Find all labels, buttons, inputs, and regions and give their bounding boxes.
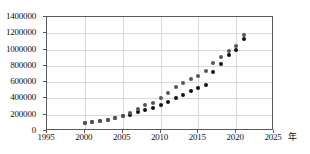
data-point (189, 89, 193, 93)
data-point (166, 100, 170, 104)
data-point (136, 110, 140, 114)
x-tick-label: 2010 (140, 133, 180, 142)
gridline-vertical (236, 17, 237, 129)
y-tick-mark (43, 65, 46, 66)
data-point (234, 44, 238, 48)
data-point (98, 119, 102, 123)
data-point (204, 83, 208, 87)
data-point (106, 118, 110, 122)
y-tick-mark (43, 32, 46, 33)
x-axis-unit-label: 年 (288, 132, 297, 142)
x-tick-mark (46, 130, 47, 133)
data-point (242, 37, 246, 41)
data-point (219, 55, 223, 59)
gridline-vertical (85, 17, 86, 129)
data-point (90, 120, 94, 124)
data-point (159, 96, 163, 100)
data-point (174, 96, 178, 100)
data-point (143, 108, 147, 112)
gridline-horizontal (47, 33, 272, 34)
x-tick-mark (197, 130, 198, 133)
data-point (151, 106, 155, 110)
y-tick-mark (43, 81, 46, 82)
data-point (166, 91, 170, 95)
y-tick-label: 1400000 (6, 12, 36, 21)
data-point (159, 103, 163, 107)
data-point (196, 86, 200, 90)
x-tick-label: 2000 (64, 133, 104, 142)
data-point (128, 111, 132, 115)
plot-area (46, 16, 273, 130)
data-point (143, 103, 147, 107)
data-point (196, 74, 200, 78)
gridline-horizontal (47, 66, 272, 67)
data-point (181, 93, 185, 97)
y-tick-mark (43, 114, 46, 115)
scatter-chart: 0200000400000600000800000100000012000001… (0, 0, 310, 154)
data-point (204, 69, 208, 73)
y-tick-label: 800000 (10, 61, 36, 70)
data-point (121, 114, 125, 118)
x-tick-label: 1995 (26, 133, 66, 142)
data-point (189, 77, 193, 81)
x-tick-mark (84, 130, 85, 133)
gridline-vertical (123, 17, 124, 129)
gridline-horizontal (47, 82, 272, 83)
y-tick-label: 600000 (10, 77, 36, 86)
x-tick-mark (160, 130, 161, 133)
y-tick-label: 200000 (10, 110, 36, 119)
data-point (151, 101, 155, 105)
y-tick-mark (43, 97, 46, 98)
data-point (227, 53, 231, 57)
y-tick-mark (43, 49, 46, 50)
x-tick-label: 2015 (177, 133, 217, 142)
data-point (181, 81, 185, 85)
data-point (83, 121, 87, 125)
data-point (174, 85, 178, 89)
y-tick-label: 1200000 (6, 28, 36, 37)
gridline-vertical (161, 17, 162, 129)
x-tick-mark (235, 130, 236, 133)
x-tick-label: 2020 (215, 133, 255, 142)
data-point (113, 116, 117, 120)
data-point (211, 70, 215, 74)
y-tick-label: 400000 (10, 93, 36, 102)
y-tick-mark (43, 16, 46, 17)
x-tick-mark (122, 130, 123, 133)
data-point (227, 49, 231, 53)
gridline-horizontal (47, 50, 272, 51)
y-tick-label: 1000000 (6, 45, 36, 54)
data-point (242, 33, 246, 37)
gridline-horizontal (47, 115, 272, 116)
data-point (211, 61, 215, 65)
x-tick-mark (273, 130, 274, 133)
data-point (219, 62, 223, 66)
x-tick-label: 2025 (253, 133, 293, 142)
data-point (136, 107, 140, 111)
x-tick-label: 2005 (102, 133, 142, 142)
